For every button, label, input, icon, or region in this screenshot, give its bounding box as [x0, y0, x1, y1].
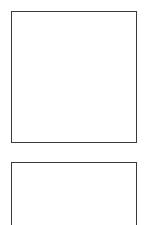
upper-frame-content — [12, 12, 136, 142]
lower-frame[interactable] — [11, 162, 137, 225]
lower-frame-content — [12, 163, 136, 225]
upper-frame[interactable] — [11, 11, 137, 143]
screen-canvas — [0, 0, 147, 225]
